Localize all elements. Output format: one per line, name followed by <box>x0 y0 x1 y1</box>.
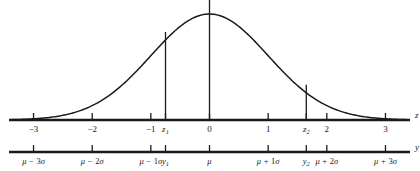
z-axis-letter: z <box>415 111 419 120</box>
y-axis-tick-label-sigma: σ <box>99 156 103 166</box>
y-axis-tick-label: y1 <box>162 157 169 166</box>
y-axis-tick-label-operator: − <box>85 156 95 166</box>
y-axis-tick-label: y2 <box>303 157 310 166</box>
y-axis-tick-label-sigma: σ <box>275 156 279 166</box>
z-axis-tick-label: z1 <box>162 125 169 134</box>
y-axis-tick-label-operator: − <box>144 156 154 166</box>
z-axis-tick-label: 0 <box>207 125 212 134</box>
normal-curve-plot <box>0 0 420 171</box>
z-axis-tick-label-subscript: 2 <box>306 128 309 135</box>
y-axis-tick-label-subscript: 2 <box>307 160 310 167</box>
y-axis-tick-label-operator: − <box>26 156 36 166</box>
z-axis-tick-label-subscript: 1 <box>166 128 169 135</box>
z-axis-tick-label: −3 <box>29 125 39 134</box>
y-axis-layer <box>9 145 410 152</box>
y-axis-tick-label-operator: + <box>261 156 271 166</box>
y-axis-tick-label: μ + 3σ <box>374 157 397 166</box>
y-axis-tick-label-operator: + <box>378 156 388 166</box>
z-axis-tick-label: 1 <box>266 125 271 134</box>
y-axis-tick-label: μ − 1σ <box>139 157 162 166</box>
y-axis-tick-label-base: μ <box>207 156 211 166</box>
z-axis-tick-label: −1 <box>146 125 156 134</box>
z-axis-tick-label: −2 <box>87 125 97 134</box>
y-axis-tick-label: μ + 1σ <box>257 157 280 166</box>
z-axis-tick-label: 3 <box>383 125 388 134</box>
y-axis-tick-label: μ <box>207 157 211 166</box>
z-axis-tick-label: 2 <box>325 125 330 134</box>
y-axis-tick-label: μ − 2σ <box>81 157 104 166</box>
y-axis-tick-label-sigma: σ <box>393 156 397 166</box>
y-axis-tick-label-sigma: σ <box>41 156 45 166</box>
normal-distribution-figure: z y −3−2−1z101z223 μ − 3σμ − 2σμ − 1σy1μ… <box>0 0 420 171</box>
y-axis-tick-label: μ + 2σ <box>315 157 338 166</box>
y-axis-tick-label-sigma: σ <box>334 156 338 166</box>
y-axis-tick-label-subscript: 1 <box>166 160 169 167</box>
ordinate-lines-layer <box>166 0 307 120</box>
z-axis-tick-label: z2 <box>303 125 310 134</box>
y-axis-tick-label-operator: + <box>320 156 330 166</box>
y-axis-letter: y <box>415 143 419 152</box>
y-axis-tick-label: μ − 3σ <box>22 157 45 166</box>
